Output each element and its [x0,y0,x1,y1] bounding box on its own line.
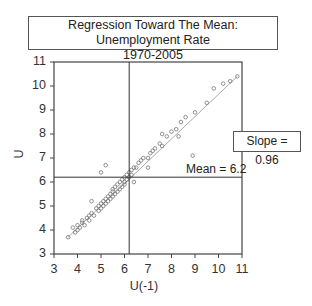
y-tick-label: 5 [26,198,46,212]
x-tick-label: 11 [232,262,252,276]
data-point [134,166,138,170]
data-point [104,163,108,167]
data-point [132,180,136,184]
x-tick-label: 7 [138,262,158,276]
data-point [66,235,70,239]
data-point [90,199,94,203]
x-tick-label: 9 [185,262,205,276]
y-tick-label: 7 [26,150,46,164]
chart-title-box: Regression Toward The Mean: Unemployment… [28,16,278,50]
x-tick-label: 3 [44,262,64,276]
data-point [83,223,87,227]
data-point [177,135,181,139]
data-point [165,135,169,139]
x-tick-label: 6 [115,262,135,276]
data-point [160,132,164,136]
data-point [71,226,75,230]
data-point [80,219,84,223]
data-point [184,115,188,119]
chart-title-line2: 1970-2005 [29,48,277,63]
data-point [87,219,91,223]
data-point [205,101,209,105]
data-point [236,75,240,79]
y-tick-label: 10 [26,78,46,92]
slope-annotation: Slope = 0.96 [233,131,301,152]
data-point [212,87,216,91]
chart-title-line1: Regression Toward The Mean: Unemployment… [29,18,277,48]
data-point [92,214,96,218]
data-point [170,130,174,134]
data-point [191,154,195,158]
y-tick-label: 4 [26,222,46,236]
x-axis-label: U(-1) [124,279,164,293]
data-point [146,156,150,160]
data-point [221,82,225,86]
x-tick-label: 8 [162,262,182,276]
x-tick-label: 10 [209,262,229,276]
y-axis-label: U [12,147,26,161]
data-point [142,156,146,160]
y-tick-label: 3 [26,246,46,260]
data-point [146,166,150,170]
data-point [193,111,197,115]
y-tick-label: 6 [26,174,46,188]
mean-annotation: Mean = 6.2 [186,162,246,176]
data-point [174,127,178,131]
plot-frame [54,62,242,254]
y-tick-label: 9 [26,102,46,116]
y-tick-label: 8 [26,126,46,140]
data-point [130,173,134,177]
data-point [153,147,157,151]
y-tick-label: 11 [26,54,46,68]
data-point [99,171,103,175]
x-tick-label: 5 [91,262,111,276]
data-point [179,120,183,124]
x-tick-label: 4 [68,262,88,276]
